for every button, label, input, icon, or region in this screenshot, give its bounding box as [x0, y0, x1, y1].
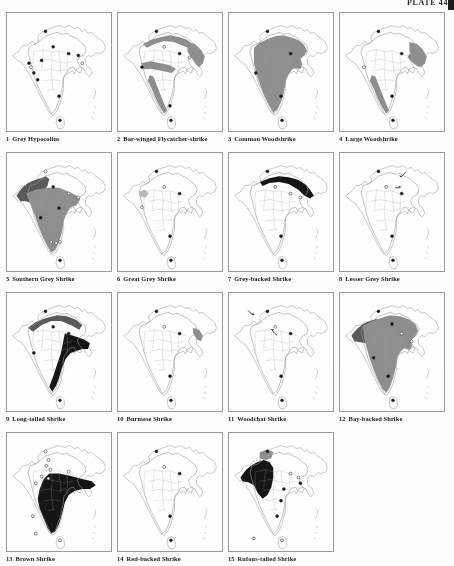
map-caption-species-name: Bay-backed Shrike: [349, 415, 403, 422]
record-marker-open: [34, 482, 37, 485]
record-marker-filled: [377, 170, 380, 173]
distribution-map-graphic: [118, 433, 222, 551]
map-caption: 2Bar-winged Flycatcher-shrike: [117, 134, 223, 143]
map-caption-species-name: Woodchat Shrike: [237, 415, 286, 422]
subcontinent-outline: [124, 306, 217, 396]
map-panel-14[interactable]: [117, 432, 223, 552]
record-marker-filled: [178, 52, 181, 55]
distribution-map-graphic: [229, 153, 333, 271]
andaman-nicobar-islands: [425, 228, 429, 259]
sri-lanka-outline: [278, 536, 287, 549]
map-panel-5[interactable]: [6, 152, 112, 272]
subcontinent-outline: [13, 26, 106, 116]
record-marker-open: [30, 66, 33, 69]
map-caption-species-name: Great Grey Shrike: [123, 275, 176, 282]
record-marker-filled: [392, 119, 395, 122]
andaman-nicobar-islands: [425, 368, 429, 399]
record-marker-open: [363, 66, 366, 69]
record-marker-filled: [52, 45, 55, 48]
distribution-map-graphic: [229, 433, 333, 551]
sri-lanka-outline: [389, 256, 398, 269]
map-caption-number: 2: [117, 135, 120, 142]
andaman-nicobar-islands: [92, 228, 96, 259]
record-marker-filled: [266, 30, 269, 33]
record-marker-filled: [391, 95, 394, 98]
sri-lanka-outline: [278, 256, 287, 269]
record-marker-filled: [266, 310, 269, 313]
record-marker-filled: [52, 325, 55, 328]
map-caption: 6Great Grey Shrike: [117, 274, 223, 283]
record-marker-open: [141, 206, 144, 209]
record-marker-open: [59, 241, 62, 244]
record-marker-filled: [280, 235, 283, 238]
record-marker-filled: [281, 259, 284, 262]
map-cell: 11Woodchat Shrike: [228, 292, 334, 423]
map-caption-number: 15: [228, 555, 235, 562]
record-marker-open: [400, 332, 403, 335]
subcontinent-outline: [124, 166, 217, 256]
record-marker-filled: [52, 185, 55, 188]
map-panel-11[interactable]: [228, 292, 334, 412]
record-marker-filled: [377, 310, 380, 313]
map-caption: 3Common Woodshrike: [228, 134, 334, 143]
map-caption-species-name: Rufous-tailed Shrike: [238, 555, 297, 562]
andaman-nicobar-islands: [203, 88, 207, 119]
map-caption-species-name: Lesser Grey Shrike: [345, 275, 399, 282]
record-marker-filled: [282, 488, 285, 491]
andaman-nicobar-islands: [425, 88, 429, 119]
map-grid: 1Grey Hypocolius2Bar-winged Flycatcher-s…: [6, 12, 450, 563]
record-marker-filled: [141, 66, 144, 69]
record-marker-filled: [170, 399, 173, 402]
map-cell: 8Lesser Grey Shrike: [339, 152, 445, 283]
record-marker-filled: [67, 52, 70, 55]
record-marker-filled: [155, 30, 158, 33]
record-marker-open: [49, 468, 52, 471]
map-caption-number: 4: [339, 135, 342, 142]
andaman-nicobar-islands: [92, 368, 96, 399]
record-marker-open: [47, 477, 50, 480]
map-panel-4[interactable]: [339, 12, 445, 132]
record-marker-filled: [372, 356, 375, 359]
map-panel-10[interactable]: [117, 292, 223, 412]
map-caption-number: 13: [6, 555, 13, 562]
map-caption-species-name: Grey-backed Shrike: [234, 275, 291, 282]
sri-lanka-outline: [389, 396, 398, 409]
map-panel-6[interactable]: [117, 152, 223, 272]
map-caption: 7Grey-backed Shrike: [228, 274, 334, 283]
andaman-nicobar-islands: [203, 508, 207, 539]
record-marker-filled: [178, 192, 181, 195]
record-marker-open: [50, 241, 53, 244]
record-marker-open: [289, 472, 292, 475]
record-marker-open: [40, 475, 43, 478]
map-caption-number: 7: [228, 275, 231, 282]
map-panel-13[interactable]: [6, 432, 112, 552]
map-cell: 2Bar-winged Flycatcher-shrike: [117, 12, 223, 143]
map-panel-7[interactable]: [228, 152, 334, 272]
map-panel-8[interactable]: [339, 152, 445, 272]
map-panel-1[interactable]: [6, 12, 112, 132]
map-panel-15[interactable]: [228, 432, 334, 552]
range-shading-mid: [363, 315, 418, 392]
map-caption-species-name: Large Woodshrike: [345, 135, 397, 142]
map-panel-2[interactable]: [117, 12, 223, 132]
map-caption: 5Southern Grey Shrike: [6, 274, 112, 283]
record-marker-open: [297, 476, 300, 479]
record-marker-open: [163, 45, 166, 48]
distribution-map-graphic: [7, 153, 111, 271]
record-marker-open: [163, 465, 166, 468]
map-caption-species-name: Grey Hypocolius: [12, 135, 59, 142]
sri-lanka-outline: [56, 256, 65, 269]
map-caption-species-name: Southern Grey Shrike: [12, 275, 74, 282]
locality-arrow-icon: [248, 310, 253, 315]
map-panel-9[interactable]: [6, 292, 112, 412]
distribution-map-graphic: [340, 13, 444, 131]
record-marker-filled: [170, 259, 173, 262]
map-panel-3[interactable]: [228, 12, 334, 132]
record-marker-open: [55, 242, 58, 245]
map-cell: 4Large Woodshrike: [339, 12, 445, 143]
distribution-map-graphic: [229, 293, 333, 411]
plate-number-label: PLATE 44: [407, 0, 448, 7]
record-marker-open: [31, 515, 34, 518]
distribution-map-graphic: [340, 293, 444, 411]
map-panel-12[interactable]: [339, 292, 445, 412]
